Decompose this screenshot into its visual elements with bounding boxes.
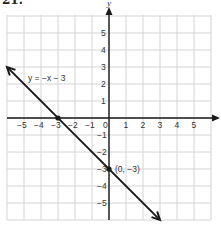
x-tick-label: 2 bbox=[141, 120, 146, 130]
x-tick-label: 1 bbox=[124, 120, 129, 130]
y-tick-label: −1 bbox=[97, 130, 107, 140]
y-tick-label: 2 bbox=[101, 79, 106, 89]
y-tick-label: −4 bbox=[97, 181, 107, 191]
y-tick-label: −2 bbox=[97, 147, 107, 157]
line-y-equals-neg-x-minus-3 bbox=[8, 68, 158, 218]
y-tick-label: 5 bbox=[101, 28, 106, 38]
x-tick-label: −1 bbox=[85, 120, 95, 130]
x-tick-label: 4 bbox=[175, 120, 180, 130]
y-axis-label: y bbox=[106, 0, 111, 8]
y-tick-label: 4 bbox=[101, 45, 106, 55]
coordinate-graph: xy −5−4−3−2−101234554321−1−2−3−4−5 y = −… bbox=[0, 0, 221, 232]
point-label: (0, −3) bbox=[115, 164, 140, 174]
plotted-point bbox=[55, 115, 60, 120]
plotted-point bbox=[106, 166, 111, 171]
equation-label: y = −x − 3 bbox=[28, 73, 66, 83]
x-tick-label: −4 bbox=[34, 120, 44, 130]
line-series bbox=[7, 67, 160, 220]
x-tick-label: 3 bbox=[158, 120, 163, 130]
y-tick-label: 3 bbox=[101, 62, 106, 72]
x-tick-label: 5 bbox=[192, 120, 197, 130]
y-axis-arrow-icon bbox=[106, 7, 113, 15]
y-tick-label: −5 bbox=[97, 198, 107, 208]
x-tick-label: 0 bbox=[103, 120, 108, 130]
x-tick-label: −5 bbox=[17, 120, 27, 130]
x-axis-arrow-icon bbox=[212, 115, 220, 122]
y-tick-label: 1 bbox=[101, 96, 106, 106]
x-tick-label: −3 bbox=[51, 120, 61, 130]
